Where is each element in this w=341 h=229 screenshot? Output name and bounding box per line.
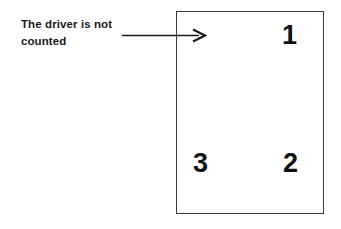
vehicle-outline-rectangle [176,11,324,214]
seat-position-1: 1 [282,22,297,49]
diagram-canvas: The driver is not counted 1 2 3 [0,0,341,229]
seat-position-2: 2 [283,150,298,177]
seat-position-3: 3 [193,150,208,177]
